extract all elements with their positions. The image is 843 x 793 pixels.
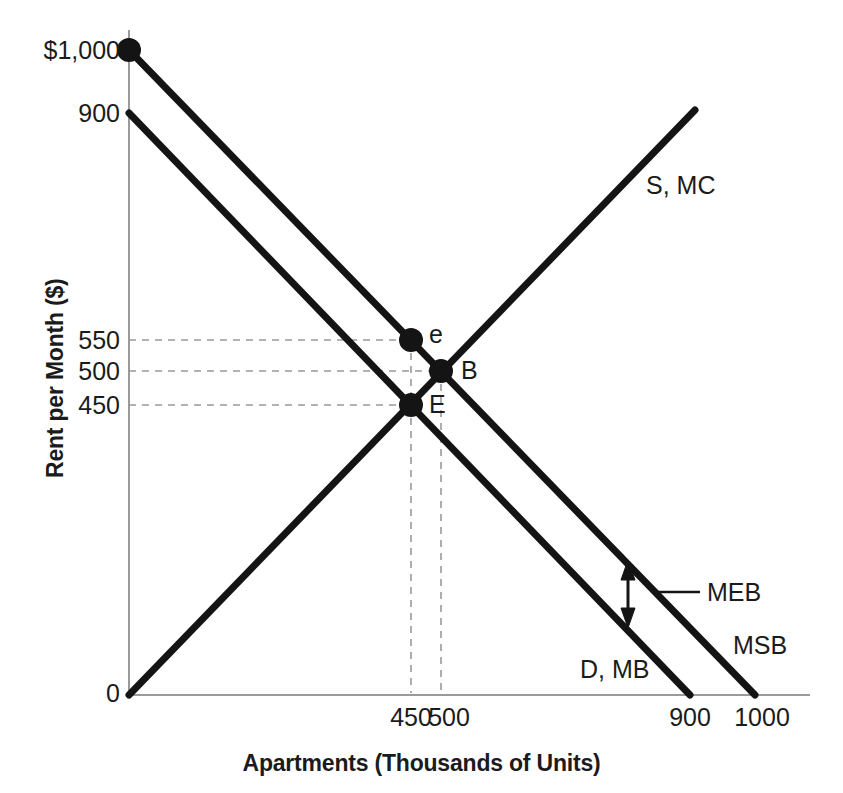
chart-canvas: [0, 0, 843, 793]
point-label-B: B: [461, 358, 478, 383]
data-points-group: [117, 38, 453, 417]
point-label-e: e: [429, 322, 443, 347]
y-tick-label-1000: $1,000: [24, 38, 120, 63]
curve-label-demand-mb: D, MB: [580, 657, 649, 682]
point-marker-B: [429, 359, 453, 383]
externality-chart: $1,000 900 550 500 450 0 450 500 900 100…: [0, 0, 843, 793]
y-tick-label-450: 450: [24, 393, 120, 418]
y-tick-label-0: 0: [24, 681, 120, 706]
x-tick-label-900: 900: [658, 705, 722, 730]
x-tick-label-1000: 1000: [726, 705, 798, 730]
curve-label-msb: MSB: [733, 633, 787, 658]
curve-label-supply-mc: S, MC: [646, 173, 715, 198]
point-marker-e: [399, 328, 423, 352]
curve-label-meb: MEB: [707, 580, 761, 605]
y-axis-title: Rent per Month ($): [44, 278, 67, 478]
y-tick-label-550: 550: [24, 328, 120, 353]
x-tick-label-500: 500: [417, 705, 481, 730]
y-tick-label-900: 900: [24, 101, 120, 126]
point-marker-E: [399, 393, 423, 417]
y-tick-label-500: 500: [24, 359, 120, 384]
point-label-E: E: [429, 392, 446, 417]
point-marker-intercept-1000: [117, 38, 141, 62]
x-axis-title: Apartments (Thousands of Units): [0, 752, 843, 775]
